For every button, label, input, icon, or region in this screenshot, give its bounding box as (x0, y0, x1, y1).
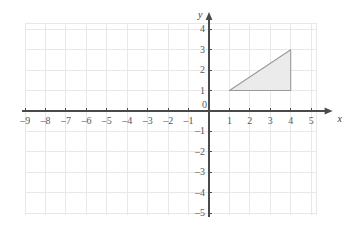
y-axis-tick-label: 2 (200, 65, 205, 75)
x-axis-tick-label: –4 (122, 116, 132, 126)
y-axis-name: y (198, 10, 202, 20)
coordinate-plane-graph: –9–8–7–6–5–4–3–2–1123454321–1–2–3–4–50xy (0, 0, 349, 232)
x-axis-tick-label: 2 (247, 116, 252, 126)
y-axis-tick-label: –3 (195, 167, 205, 177)
x-axis-tick-label: 1 (227, 116, 232, 126)
y-axis-tick-label: –4 (195, 188, 205, 198)
x-axis-tick-label: 4 (288, 116, 293, 126)
x-axis-tick-label: –9 (20, 116, 30, 126)
x-axis-tick-label: 5 (309, 116, 314, 126)
y-axis-tick-label: –5 (195, 208, 205, 218)
graph-canvas (0, 0, 349, 232)
y-axis-tick-label: –2 (195, 147, 205, 157)
x-axis-tick-label: –2 (163, 116, 173, 126)
y-axis-tick-label: 3 (200, 45, 205, 55)
y-axis-tick-label: 4 (200, 24, 205, 34)
x-axis-tick-label: 3 (268, 116, 273, 126)
x-axis-tick-label: –7 (61, 116, 71, 126)
y-axis-tick-label: 1 (200, 86, 205, 96)
x-axis-name: x (338, 114, 342, 124)
x-axis-tick-label: –6 (81, 116, 91, 126)
origin-label: 0 (202, 100, 207, 110)
x-axis-tick-label: –8 (41, 116, 51, 126)
y-axis-arrow (206, 12, 213, 20)
x-axis-tick-label: –1 (184, 116, 194, 126)
x-axis-tick-label: –3 (143, 116, 153, 126)
x-axis-arrow (325, 108, 333, 115)
x-axis-tick-label: –5 (102, 116, 112, 126)
y-axis-tick-label: –1 (195, 126, 205, 136)
